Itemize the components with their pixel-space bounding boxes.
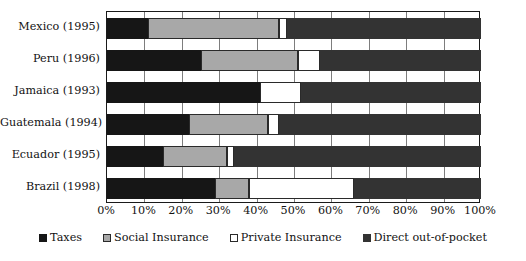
- legend-label: Private Insurance: [241, 231, 342, 244]
- bar-segment: [107, 50, 201, 71]
- legend-label: Direct out-of-pocket: [374, 231, 487, 244]
- bar-row: [107, 18, 479, 39]
- y-axis-label: Peru (1996): [0, 52, 105, 65]
- legend-item[interactable]: Direct out-of-pocket: [363, 231, 487, 244]
- bar-segment: [107, 178, 215, 199]
- x-axis-tick-labels: 0%10%20%30%40%50%60%70%80%90%100%: [106, 204, 480, 222]
- legend-swatch-icon: [103, 234, 111, 242]
- legend-item[interactable]: Social Insurance: [103, 231, 209, 244]
- legend-swatch-icon: [230, 234, 238, 242]
- chart-legend: TaxesSocial InsurancePrivate InsuranceDi…: [0, 231, 526, 244]
- bar-segment: [201, 50, 298, 71]
- bars-layer: [107, 12, 479, 202]
- bar-segment: [215, 178, 249, 199]
- x-axis-tick-label: 10%: [131, 204, 156, 217]
- bar-row: [107, 82, 479, 103]
- bar-segment: [320, 50, 481, 71]
- bar-segment: [298, 50, 320, 71]
- plot-area: [106, 11, 480, 203]
- x-axis-tick-label: 60%: [318, 204, 343, 217]
- x-axis-tick-label: 80%: [393, 204, 418, 217]
- x-axis-tick-label: 50%: [281, 204, 306, 217]
- stacked-bar-chart: Mexico (1995)Peru (1996)Jamaica (1993)Gu…: [0, 0, 526, 261]
- legend-swatch-icon: [39, 234, 47, 242]
- bar-segment: [163, 146, 227, 167]
- bar-row: [107, 50, 479, 71]
- bar-segment: [279, 18, 286, 39]
- bar-row: [107, 178, 479, 199]
- x-axis-tick-label: 90%: [430, 204, 455, 217]
- y-axis-label: Brazil (1998): [0, 180, 105, 193]
- bar-segment: [234, 146, 481, 167]
- x-axis-tick-label: 0%: [97, 204, 115, 217]
- y-axis-label: Ecuador (1995): [0, 148, 105, 161]
- y-axis-label: Mexico (1995): [0, 20, 105, 33]
- legend-label: Social Insurance: [114, 231, 209, 244]
- bar-segment: [189, 114, 268, 135]
- bar-segment: [354, 178, 481, 199]
- legend-item[interactable]: Taxes: [39, 231, 82, 244]
- legend-swatch-icon: [363, 234, 371, 242]
- bar-row: [107, 146, 479, 167]
- bar-segment: [227, 146, 234, 167]
- bar-segment: [279, 114, 481, 135]
- x-axis-tick-label: 20%: [168, 204, 193, 217]
- x-axis-tick-label: 30%: [206, 204, 231, 217]
- x-axis-tick-label: 70%: [355, 204, 380, 217]
- bar-segment: [107, 18, 148, 39]
- y-axis-label: Guatemala (1994): [0, 116, 105, 129]
- bar-segment: [301, 82, 481, 103]
- bar-segment: [107, 114, 189, 135]
- bar-segment: [249, 178, 354, 199]
- x-axis-tick-label: 100%: [464, 204, 496, 217]
- bar-row: [107, 114, 479, 135]
- legend-item[interactable]: Private Insurance: [230, 231, 342, 244]
- bar-segment: [148, 18, 279, 39]
- bar-segment: [287, 18, 481, 39]
- x-axis-tick-label: 40%: [243, 204, 268, 217]
- bar-segment: [107, 82, 260, 103]
- y-axis-label: Jamaica (1993): [0, 84, 105, 97]
- bar-segment: [107, 146, 163, 167]
- bar-segment: [268, 114, 279, 135]
- legend-label: Taxes: [50, 231, 82, 244]
- bar-segment: [260, 82, 301, 103]
